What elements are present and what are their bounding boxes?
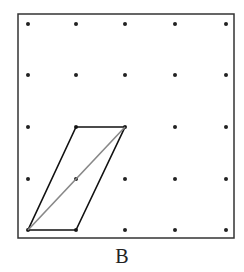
grid-dot [123,177,127,181]
figure-label: B [0,245,244,268]
grid-dot [173,177,177,181]
grid-dot [173,125,177,129]
grid-dot [224,22,228,26]
grid-dot [26,177,30,181]
grid-dot [26,73,30,77]
grid-dot [26,22,30,26]
geoboard-diagram [0,0,244,272]
grid-dot [123,22,127,26]
grid-dot [224,73,228,77]
grid-dot [173,228,177,232]
grid-dot [224,177,228,181]
grid-dot [173,22,177,26]
grid-dot [224,228,228,232]
grid-dot [123,73,127,77]
grid-dot [26,125,30,129]
grid-dot [74,73,78,77]
diagonal-line [28,127,125,230]
grid-dot [224,125,228,129]
grid-dot [123,228,127,232]
grid-dot [173,73,177,77]
grid-dot [74,22,78,26]
